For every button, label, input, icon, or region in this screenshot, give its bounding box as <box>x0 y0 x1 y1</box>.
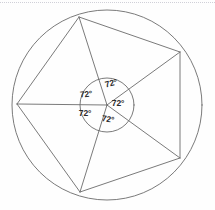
angle-lower-left: 72° <box>79 108 91 118</box>
pentagon-edge-bottom-to-left <box>17 104 80 192</box>
radius-to-left <box>17 104 107 105</box>
angle-upper-left: 72° <box>79 88 92 99</box>
angle-bottom: 72° <box>101 113 115 125</box>
angle-right: 72° <box>112 98 124 108</box>
radius-to-lower-right <box>107 105 180 158</box>
pentagon-edge-top-to-upper-right <box>79 17 180 52</box>
pentagon-edge-lower-right-to-bottom <box>80 158 180 192</box>
pentagon-circle-diagram <box>0 0 215 210</box>
figure-canvas: 72°72°72°72°72° <box>0 0 215 210</box>
